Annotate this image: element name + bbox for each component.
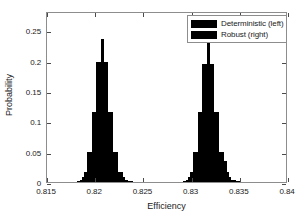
histogram-figure: 0.8150.820.8250.830.8350.84 00.050.10.15… bbox=[0, 0, 304, 217]
x-axis-tick bbox=[288, 13, 289, 17]
y-axis-tick bbox=[47, 154, 51, 155]
x-axis-label: Efficiency bbox=[46, 201, 287, 211]
y-axis-tick bbox=[282, 184, 286, 185]
y-axis-tick bbox=[47, 184, 51, 185]
x-axis-tick bbox=[192, 178, 193, 182]
x-axis-tick bbox=[95, 178, 96, 182]
legend-item-robust: Robust (right) bbox=[191, 29, 283, 40]
y-axis-tick bbox=[47, 32, 51, 33]
x-axis-tick bbox=[240, 178, 241, 182]
legend-label: Robust (right) bbox=[221, 30, 268, 39]
y-axis-tick bbox=[282, 93, 286, 94]
x-tick-label: 0.84 bbox=[279, 187, 294, 196]
legend-label: Deterministic (left) bbox=[221, 19, 283, 28]
legend: Deterministic (left) Robust (right) bbox=[187, 15, 287, 43]
x-tick-label: 0.825 bbox=[133, 187, 153, 196]
x-axis-tick bbox=[143, 178, 144, 182]
x-tick-label: 0.835 bbox=[229, 187, 249, 196]
y-tick-label: 0.25 bbox=[8, 27, 41, 36]
y-axis-tick bbox=[47, 93, 51, 94]
histogram-bar bbox=[130, 181, 132, 182]
y-axis-tick bbox=[47, 123, 51, 124]
x-tick-label: 0.815 bbox=[36, 187, 56, 196]
y-tick-label: 0.05 bbox=[8, 148, 41, 157]
x-axis-tick bbox=[143, 13, 144, 17]
y-axis-tick bbox=[282, 63, 286, 64]
y-axis-tick bbox=[282, 123, 286, 124]
x-axis-tick bbox=[288, 178, 289, 182]
y-tick-label: 0 bbox=[8, 179, 41, 188]
x-axis-tick bbox=[47, 178, 48, 182]
x-tick-label: 0.83 bbox=[183, 187, 198, 196]
legend-swatch-icon bbox=[191, 20, 217, 28]
x-axis-tick bbox=[95, 13, 96, 17]
x-axis-tick bbox=[47, 13, 48, 17]
y-axis-tick bbox=[47, 63, 51, 64]
legend-swatch-icon bbox=[191, 31, 217, 39]
x-tick-label: 0.82 bbox=[87, 187, 102, 196]
legend-item-deterministic: Deterministic (left) bbox=[191, 18, 283, 29]
y-axis-label: Probability bbox=[4, 55, 14, 135]
y-axis-tick bbox=[282, 154, 286, 155]
